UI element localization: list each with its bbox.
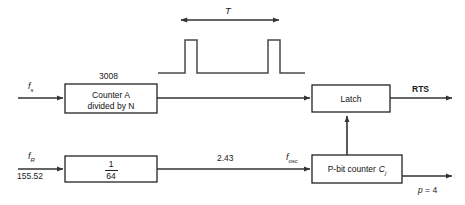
rts-output-label: RTS [412, 85, 429, 94]
input-top-subscript: s [31, 87, 34, 93]
p-bit-counter-label: P-bit counterCj [312, 164, 402, 178]
input-bottom-label: fR [28, 152, 35, 163]
divider-fraction: 1 64 [65, 160, 157, 181]
counter-a-top-label: 3008 [99, 72, 118, 81]
osc-subscript: osc [289, 158, 298, 164]
p-value-label: p = 4 [418, 186, 437, 195]
input-bottom-value: 155.52 [17, 172, 43, 181]
p-value: 4 [432, 185, 437, 195]
period-label: T [225, 6, 231, 16]
mid-value-label: 2.43 [217, 154, 234, 163]
counter-a-line2: divided by N [65, 101, 157, 112]
block-diagram: T fs 3008 Counter A divided by N Latch R… [0, 0, 465, 205]
pulse-waveform [158, 40, 305, 73]
p-bit-counter-symbol-subscript: j [385, 170, 386, 176]
counter-a-label: Counter A divided by N [65, 90, 157, 111]
counter-a-line1: Counter A [65, 90, 157, 101]
input-bottom-subscript: R [31, 157, 35, 163]
p-bit-counter-text: P-bit counter [328, 164, 376, 174]
p-equals: = [423, 185, 433, 195]
osc-signal-label: fosc [286, 153, 298, 164]
input-top-label: fs [28, 82, 34, 93]
divider-denominator: 64 [65, 172, 157, 181]
divider-numerator: 1 [65, 160, 157, 169]
latch-label: Latch [312, 94, 390, 105]
